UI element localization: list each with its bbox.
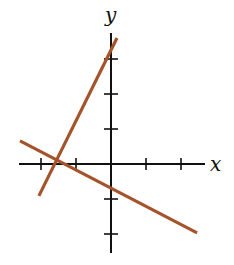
coordinate-plot: y x <box>0 0 234 265</box>
plotted-lines <box>20 38 197 233</box>
shallow-line <box>20 141 197 233</box>
y-axis-label: y <box>104 3 117 27</box>
x-axis-label: x <box>210 152 221 176</box>
axes <box>19 33 205 253</box>
